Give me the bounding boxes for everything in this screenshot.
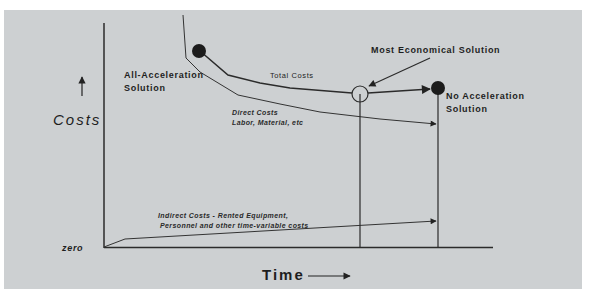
no-acceleration-label-2: Solution <box>446 104 488 114</box>
direct-costs-label-2: Labor, Material, etc <box>232 119 303 126</box>
all-acceleration-label-2: Solution <box>124 83 166 93</box>
all-acceleration-label-1: All-Acceleration <box>124 70 204 80</box>
indirect-costs-label-2: Personnel and other time-variable costs <box>160 222 309 229</box>
no-acceleration-point <box>431 81 445 95</box>
most-economical-label: Most Economical Solution <box>371 45 500 55</box>
direct-costs-label-1: Direct Costs <box>232 109 278 116</box>
no-acceleration-label-1: No Acceleration <box>446 91 525 101</box>
total-costs-label: Total Costs <box>270 71 314 80</box>
zero-label: zero <box>62 243 83 253</box>
x-axis-label: Time <box>262 266 305 283</box>
y-axis-label: Costs <box>53 111 101 128</box>
all-acceleration-point <box>192 44 206 58</box>
cost-time-diagram <box>0 0 595 289</box>
most-economical-callout-arrow <box>369 58 430 86</box>
indirect-costs-label-1: Indirect Costs - Rented Equipment, <box>158 212 288 219</box>
total-costs-curve-rising <box>368 89 430 93</box>
